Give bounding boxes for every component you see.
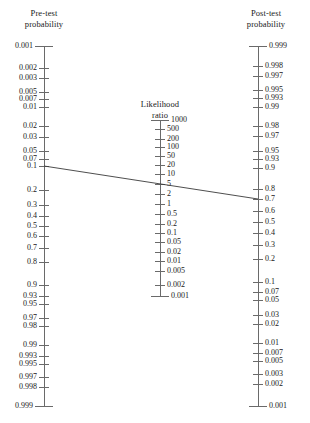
pre-test-tick-label: 0.7: [5, 244, 37, 252]
pre-test-tick-label: 0.997: [5, 373, 37, 381]
pre-test-tick-label: 0.2: [5, 186, 37, 194]
post-test-tick: [253, 189, 263, 190]
post-test-title-line2: probability: [247, 19, 285, 29]
likelihood-tick-label: 5: [167, 180, 201, 188]
likelihood-tick: [155, 242, 165, 243]
pre-test-tick-label: 0.4: [5, 212, 37, 220]
likelihood-tick: [155, 252, 165, 253]
post-test-tick: [253, 159, 263, 160]
post-test-tick-label: 0.93: [265, 155, 299, 163]
post-test-tick: [249, 46, 267, 47]
post-test-tick: [253, 76, 263, 77]
post-test-tick-label: 0.002: [265, 380, 299, 388]
pre-test-tick: [39, 190, 49, 191]
pre-test-tick: [39, 377, 49, 378]
likelihood-tick-label: 0.1: [167, 229, 201, 237]
likelihood-tick-label: 20: [167, 161, 201, 169]
pre-test-tick-label: 0.98: [5, 322, 37, 330]
post-test-tick: [253, 343, 263, 344]
fagan-nomogram: Pre-test probability Likelihood ratio Po…: [0, 0, 310, 423]
likelihood-tick: [155, 224, 165, 225]
post-test-tick: [253, 315, 263, 316]
pre-test-tick-label: 0.95: [5, 300, 37, 308]
post-test-tick-label: 0.97: [265, 132, 299, 140]
pre-test-tick-label: 0.01: [5, 103, 37, 111]
likelihood-tick: [155, 285, 165, 286]
pre-test-tick: [39, 107, 49, 108]
post-test-tick-label: 0.005: [265, 357, 299, 365]
likelihood-tick: [155, 147, 165, 148]
pre-test-tick: [39, 262, 49, 263]
pre-test-tick: [39, 318, 49, 319]
pre-test-tick: [39, 304, 49, 305]
pre-test-tick: [39, 137, 49, 138]
pre-test-tick-label: 0.002: [5, 64, 37, 72]
post-test-title-line1: Post-test: [251, 8, 281, 18]
pre-test-tick: [39, 126, 49, 127]
pre-test-tick-label: 0.9: [5, 281, 37, 289]
post-test-tick-label: 0.999: [269, 42, 303, 50]
likelihood-tick-label: 0.002: [167, 281, 201, 289]
post-test-tick: [253, 245, 263, 246]
pre-test-tick: [39, 285, 49, 286]
likelihood-tick: [151, 296, 169, 297]
post-test-tick-label: 0.7: [265, 195, 299, 203]
pre-test-tick-label: 0.99: [5, 341, 37, 349]
likelihood-tick: [155, 129, 165, 130]
post-test-probability-title: Post-test probability: [228, 8, 304, 29]
post-test-tick-label: 0.03: [265, 311, 299, 319]
post-test-tick-label: 0.993: [265, 94, 299, 102]
pre-test-tick: [39, 326, 49, 327]
reading-line-overlay: [0, 0, 310, 423]
pre-test-tick-label: 0.8: [5, 258, 37, 266]
likelihood-tick-label: 50: [167, 152, 201, 160]
post-test-tick: [253, 324, 263, 325]
likelihood-tick: [151, 120, 169, 121]
pre-test-tick-label: 0.1: [5, 162, 37, 170]
post-test-tick: [253, 233, 263, 234]
pre-test-tick: [39, 226, 49, 227]
post-test-tick: [253, 353, 263, 354]
post-test-tick-label: 0.5: [265, 218, 299, 226]
likelihood-tick-label: 500: [167, 125, 201, 133]
pre-test-tick: [39, 159, 49, 160]
post-test-tick-label: 0.2: [265, 255, 299, 263]
post-test-tick-label: 0.02: [265, 320, 299, 328]
post-test-tick-label: 0.998: [265, 62, 299, 70]
post-test-tick: [249, 406, 267, 407]
reading-line: [44, 166, 258, 199]
post-test-tick-label: 0.6: [265, 207, 299, 215]
likelihood-tick-label: 2: [167, 190, 201, 198]
post-test-tick-label: 0.4: [265, 229, 299, 237]
pre-test-tick: [35, 46, 53, 47]
pre-test-probability-title: Pre-test probability: [6, 8, 82, 29]
likelihood-tick: [155, 174, 165, 175]
pre-test-tick: [39, 151, 49, 152]
likelihood-tick: [155, 214, 165, 215]
pre-test-tick-label: 0.02: [5, 122, 37, 130]
pre-test-tick: [39, 99, 49, 100]
likelihood-tick-label: 0.02: [167, 248, 201, 256]
likelihood-tick: [155, 233, 165, 234]
pre-test-tick: [39, 216, 49, 217]
post-test-tick-label: 0.01: [265, 339, 299, 347]
likelihood-tick: [155, 165, 165, 166]
post-test-tick: [253, 199, 263, 200]
post-test-tick-label: 0.99: [265, 103, 299, 111]
pre-test-tick-label: 0.998: [5, 383, 37, 391]
pre-test-tick-label: 0.6: [5, 232, 37, 240]
post-test-tick: [253, 126, 263, 127]
likelihood-tick: [155, 156, 165, 157]
likelihood-tick-label: 1: [167, 200, 201, 208]
likelihood-tick-label: 0.5: [167, 210, 201, 218]
likelihood-tick: [155, 184, 165, 185]
pre-test-title-line1: Pre-test: [31, 8, 58, 18]
likelihood-tick: [155, 139, 165, 140]
likelihood-tick: [155, 194, 165, 195]
likelihood-tick-label: 0.005: [167, 267, 201, 275]
post-test-tick-label: 0.9: [265, 164, 299, 172]
post-test-tick: [253, 211, 263, 212]
post-test-tick-label: 0.98: [265, 122, 299, 130]
pre-test-tick-label: 0.001: [1, 42, 33, 50]
post-test-tick: [253, 136, 263, 137]
